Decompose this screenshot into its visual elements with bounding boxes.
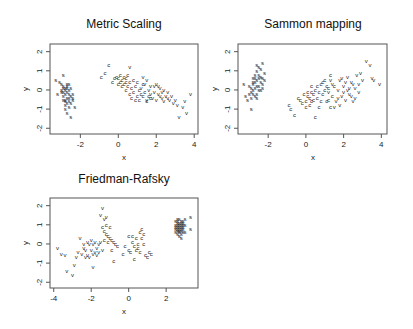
point-virginica: v — [333, 104, 336, 110]
point-setosa: s — [64, 106, 67, 112]
x-tick-label: -2 — [77, 140, 85, 149]
point-virginica: v — [329, 77, 332, 83]
panel-title: Friedman-Rafsky — [78, 172, 169, 186]
points: ssssssssssssssssssssssssssssssssssssssss… — [56, 205, 192, 278]
y-tick-label: 0 — [223, 87, 232, 92]
point-versicolor: c — [146, 254, 149, 260]
point-versicolor: c — [113, 75, 116, 81]
point-virginica: v — [149, 91, 152, 97]
point-versicolor: c — [138, 97, 141, 103]
point-virginica: v — [344, 97, 347, 103]
point-versicolor: c — [103, 237, 106, 243]
figure: Metric Scaling -2024 -2-1012 x y sssssss… — [0, 0, 413, 329]
point-versicolor: c — [301, 100, 304, 106]
x-tick-label: 0 — [304, 140, 309, 149]
point-virginica: v — [359, 70, 362, 76]
point-virginica: v — [71, 272, 74, 278]
point-setosa: s — [189, 214, 192, 220]
point-virginica: v — [160, 89, 163, 95]
point-versicolor: c — [297, 95, 300, 101]
point-setosa: s — [242, 81, 245, 87]
point-versicolor: c — [312, 91, 315, 97]
point-versicolor: c — [119, 79, 122, 85]
point-virginica: v — [348, 85, 351, 91]
point-virginica: v — [73, 262, 76, 268]
point-setosa: s — [62, 97, 65, 103]
panel-title: Metric Scaling — [86, 17, 161, 31]
point-virginica: v — [77, 249, 80, 255]
point-virginica: v — [105, 214, 108, 220]
point-virginica: v — [336, 95, 339, 101]
point-setosa: s — [180, 226, 183, 232]
point-virginica: v — [181, 104, 184, 110]
x-axis: -2024 — [265, 134, 385, 149]
point-virginica: v — [342, 89, 345, 95]
point-virginica: v — [378, 81, 381, 87]
panel-friedman-rafsky: Friedman-Rafsky -4-202 -2-1012 x y sssss… — [21, 172, 198, 316]
x-tick-label: 0 — [116, 140, 121, 149]
point-setosa: s — [257, 87, 260, 93]
point-setosa: s — [178, 233, 181, 239]
point-setosa: s — [69, 100, 72, 106]
point-virginica: v — [65, 268, 68, 274]
x-axis: -2024 — [77, 134, 197, 149]
point-virginica: v — [157, 83, 160, 89]
point-setosa: s — [69, 114, 72, 120]
x-tick-label: -2 — [265, 140, 273, 149]
point-setosa: s — [252, 91, 255, 97]
y-tick-label: 1 — [35, 222, 44, 227]
points: ssssssssssssssssssssssssssssssssssssssss… — [242, 58, 381, 120]
point-virginica: v — [56, 245, 59, 251]
point-virginica: v — [361, 77, 364, 83]
point-versicolor: c — [304, 104, 307, 110]
point-versicolor: c — [314, 114, 317, 120]
y-axis-label: y — [21, 241, 30, 245]
point-versicolor: c — [116, 243, 119, 249]
point-virginica: v — [63, 252, 66, 258]
y-tick-label: 2 — [35, 203, 44, 208]
point-virginica: v — [141, 74, 144, 80]
point-versicolor: c — [108, 224, 111, 230]
point-virginica: v — [355, 72, 358, 78]
point-setosa: s — [244, 93, 247, 99]
x-axis: -4-202 — [50, 288, 169, 303]
point-setosa: s — [174, 229, 177, 235]
point-setosa: s — [248, 91, 251, 97]
point-virginica: v — [92, 264, 95, 270]
point-virginica: v — [170, 93, 173, 99]
point-versicolor: c — [110, 247, 113, 253]
y-axis-label: y — [21, 87, 30, 91]
point-setosa: s — [259, 74, 262, 80]
point-versicolor: c — [127, 247, 130, 253]
point-versicolor: c — [329, 104, 332, 110]
y-tick-label: -2 — [35, 124, 44, 132]
point-versicolor: c — [310, 83, 313, 89]
x-axis-label: x — [122, 153, 126, 162]
point-virginica: v — [82, 245, 85, 251]
y-tick-label: 2 — [35, 49, 44, 54]
y-tick-label: 0 — [35, 241, 44, 246]
point-versicolor: c — [124, 87, 127, 93]
point-setosa: s — [263, 70, 266, 76]
point-virginica: v — [189, 91, 192, 97]
points: ssssssssssssssssssssssssssssssssssssssss… — [54, 62, 192, 120]
point-versicolor: c — [289, 106, 292, 112]
point-virginica: v — [357, 81, 360, 87]
x-tick-label: 4 — [192, 140, 197, 149]
point-virginica: v — [99, 239, 102, 245]
point-versicolor: c — [293, 112, 296, 118]
point-virginica: v — [153, 83, 156, 89]
point-setosa: s — [176, 218, 179, 224]
y-tick-label: -2 — [223, 124, 232, 132]
point-setosa: s — [62, 72, 65, 78]
x-tick-label: 2 — [164, 294, 169, 303]
point-virginica: v — [183, 98, 186, 104]
point-setosa: s — [261, 85, 264, 91]
point-virginica: v — [176, 102, 179, 108]
x-tick-label: -2 — [88, 294, 96, 303]
point-virginica: v — [352, 81, 355, 87]
point-virginica: v — [357, 89, 360, 95]
point-virginica: v — [344, 79, 347, 85]
point-setosa: s — [71, 95, 74, 101]
y-axis: -2-1012 — [35, 49, 50, 132]
